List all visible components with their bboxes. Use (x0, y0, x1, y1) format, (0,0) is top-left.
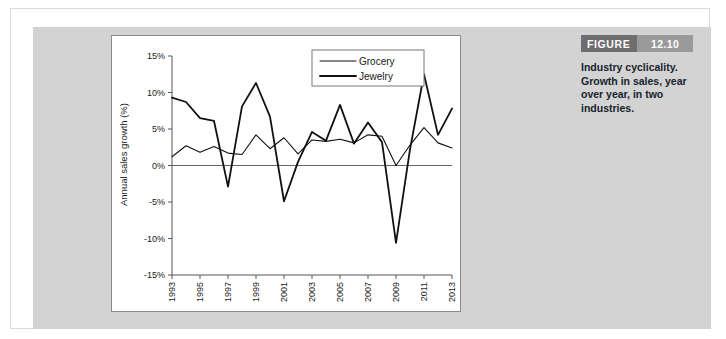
x-tick-label: 2009 (391, 282, 401, 302)
chart-card: Annual sales growth (%) 15%10%5%0%-5%-10… (111, 35, 461, 312)
page-root: Annual sales growth (%) 15%10%5%0%-5%-10… (0, 0, 726, 339)
legend-label-grocery: Grocery (359, 56, 395, 67)
x-tick-label: 2005 (335, 282, 345, 302)
series-group (172, 74, 452, 243)
outer-panel: Annual sales growth (%) 15%10%5%0%-5%-10… (10, 8, 710, 329)
y-tick-label: 5% (152, 124, 165, 134)
y-tick-label: 0% (152, 161, 165, 171)
x-tick-label: 2011 (419, 282, 429, 301)
figure-badge-number: 12.10 (637, 35, 693, 52)
y-tick-label: -10% (144, 234, 165, 244)
x-tick-label: 1993 (167, 282, 177, 302)
y-tick-label: 10% (147, 88, 165, 98)
figure-badge: FIGURE 12.10 (581, 35, 693, 52)
figure-caption-block: FIGURE 12.10 Industry cyclicality. Growt… (581, 35, 701, 155)
figure-badge-word: FIGURE (581, 35, 637, 52)
x-tick-label: 2001 (279, 282, 289, 302)
x-tick-label: 2003 (307, 282, 317, 302)
y-tick-label: 15% (147, 51, 165, 61)
y-tick-label: -5% (149, 197, 165, 207)
x-tick-label: 1995 (195, 282, 205, 302)
x-tick-label: 2007 (363, 282, 373, 302)
series-line-jewelry (172, 74, 452, 243)
figure-caption-text: Industry cyclicality. Growth in sales, y… (581, 61, 689, 115)
chart-legend: Grocery Jewelry (312, 50, 424, 86)
x-tick-label: 2013 (447, 282, 457, 302)
cyclicality-line-chart: Annual sales growth (%) 15%10%5%0%-5%-10… (112, 36, 460, 311)
x-tick-label: 1999 (251, 282, 261, 302)
y-axis-title: Annual sales growth (%) (118, 103, 129, 206)
y-axis-tick-group: 15%10%5%0%-5%-10%-15% (144, 51, 172, 280)
x-tick-label: 1997 (223, 282, 233, 302)
y-tick-label: -15% (144, 270, 165, 280)
legend-label-jewelry: Jewelry (359, 71, 393, 82)
x-axis-tick-group: 1993199519971999200120032005200720092011… (167, 275, 457, 302)
